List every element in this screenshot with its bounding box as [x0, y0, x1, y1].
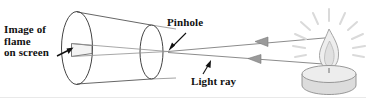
pinhole-camera-figure: Image of flame on screen Pinhole Light r…: [0, 0, 366, 106]
label-image-of-flame-on-screen: Image of flame on screen: [4, 24, 49, 59]
light-ray-lower-arrowhead: [248, 55, 261, 64]
label-pinhole: Pinhole: [167, 17, 203, 29]
light-ray-pointer-arrowhead: [206, 60, 212, 68]
image-of-flame-pointer: [57, 48, 74, 57]
pinhole-pointer-arrowhead: [169, 43, 176, 52]
label-light-ray: Light ray: [191, 76, 236, 88]
box-bottom-edge: [77, 79, 151, 84]
light-ray-pointer: [203, 60, 211, 74]
light-ray-upper-arrowhead: [255, 37, 268, 47]
inverted-flame-image-shape: [72, 44, 93, 57]
candle: [302, 66, 356, 95]
inverted-flame-image: [72, 44, 93, 57]
light-rays: [168, 37, 330, 65]
pinhole-pointer: [169, 33, 187, 51]
candle-flame: [320, 29, 339, 69]
